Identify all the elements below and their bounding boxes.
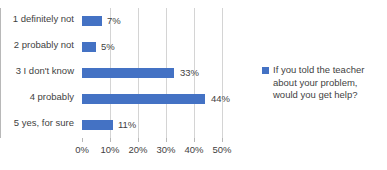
x-tick-label: 50% <box>212 144 231 156</box>
category-axis-line <box>0 8 1 138</box>
x-tick-label: 10% <box>100 144 119 156</box>
bar-value-label: 44% <box>211 94 230 104</box>
bar <box>82 120 113 130</box>
bar-value-label: 33% <box>180 68 199 78</box>
bar <box>82 94 205 104</box>
gridline <box>222 8 223 138</box>
bar <box>82 68 174 78</box>
category-label: 1 definitely not <box>0 13 74 24</box>
category-label: 4 probably <box>0 91 74 102</box>
category-axis-labels: 1 definitely not 2 probably not 3 I don'… <box>0 8 78 138</box>
category-label: 5 yes, for sure <box>0 117 74 128</box>
x-tick-label: 40% <box>184 144 203 156</box>
axis-tick <box>138 138 139 142</box>
x-tick-label: 30% <box>156 144 175 156</box>
legend-label-line-2: about your problem, <box>273 77 358 88</box>
bar-value-label: 5% <box>101 42 115 52</box>
bar <box>82 42 96 52</box>
bar <box>82 16 102 26</box>
axis-tick <box>194 138 195 142</box>
legend-label-line-3: would you get help? <box>273 89 358 100</box>
chart-legend: If you told the teacher about your probl… <box>262 64 384 102</box>
axis-tick <box>82 138 83 142</box>
legend-swatch-icon <box>262 67 269 74</box>
x-tick-label: 0% <box>75 144 89 156</box>
axis-tick <box>110 138 111 142</box>
bar-value-label: 11% <box>118 120 136 130</box>
legend-item: If you told the teacher about your probl… <box>262 64 384 102</box>
plot-area: 7% 5% 33% 44% 11% <box>82 8 222 138</box>
category-label: 2 probably not <box>0 39 74 50</box>
value-axis-labels: 0% 10% 20% 30% 40% 50% <box>82 144 232 158</box>
legend-label-line-1: If you told the teacher <box>273 64 364 75</box>
category-label: 3 I don't know <box>0 65 74 76</box>
bar-chart: 1 definitely not 2 probably not 3 I don'… <box>0 0 387 170</box>
axis-tick <box>222 138 223 142</box>
bar-value-label: 7% <box>107 16 121 26</box>
axis-tick <box>166 138 167 142</box>
x-tick-label: 20% <box>128 144 147 156</box>
legend-label: If you told the teacher about your probl… <box>273 64 384 102</box>
